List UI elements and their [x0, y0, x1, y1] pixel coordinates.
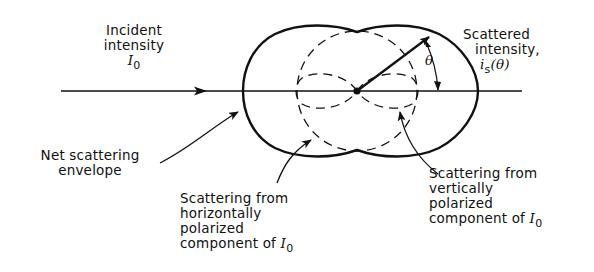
vertical-line-4: component of I0	[429, 211, 579, 231]
incident-intensity-label: Incident intensity I0	[96, 23, 172, 73]
vertical-line-1: Scattering from	[429, 166, 579, 181]
incident-line-2: intensity	[96, 38, 172, 53]
horizontal-symbol-subscript: 0	[286, 242, 293, 255]
scattered-line-2: intensity,	[463, 42, 583, 57]
horizontal-polarized-label: Scattering from horizontally polarized c…	[180, 191, 320, 256]
horizontal-line-4: component of I0	[180, 236, 320, 256]
envelope-line-2: envelope	[28, 163, 152, 178]
vertical-line-4-text: component of	[429, 210, 525, 226]
vertical-line-2: vertically	[429, 181, 579, 196]
horizontal-line-1: Scattering from	[180, 191, 320, 206]
incident-symbol-subscript: 0	[133, 59, 140, 72]
theta-label: θ	[425, 53, 433, 68]
scattered-line-1: Scattered	[463, 27, 583, 42]
envelope-line-1: Net scattering	[28, 148, 152, 163]
horizontal-line-4-text: component of	[180, 235, 276, 251]
scattered-symbol-arg: (θ)	[490, 56, 509, 72]
theta-symbol: θ	[425, 52, 433, 68]
envelope-leader	[160, 112, 238, 163]
incident-symbol: I0	[96, 53, 172, 73]
vertical-polarized-label: Scattering from vertically polarized com…	[429, 166, 579, 231]
theta-arrow-bottom-icon	[434, 81, 441, 91]
incident-line-1: Incident	[96, 23, 172, 38]
horizontal-line-3: polarized	[180, 221, 320, 236]
vertical-symbol-subscript: 0	[535, 217, 542, 230]
scattered-intensity-vector	[357, 37, 429, 91]
net-envelope-label: Net scattering envelope	[28, 148, 152, 178]
scattered-symbol: is(θ)	[463, 57, 583, 77]
horizontal-line-2: horizontally	[180, 206, 320, 221]
vertical-line-3: polarized	[429, 196, 579, 211]
scattered-intensity-label: Scattered intensity, is(θ)	[463, 27, 583, 77]
horizontal-leader	[277, 140, 311, 183]
